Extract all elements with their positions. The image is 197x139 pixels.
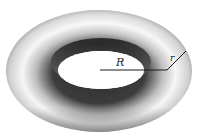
minor-radius-label: r xyxy=(170,53,175,63)
major-radius-label: R xyxy=(115,56,124,69)
torus-diagram: R r xyxy=(0,0,197,139)
